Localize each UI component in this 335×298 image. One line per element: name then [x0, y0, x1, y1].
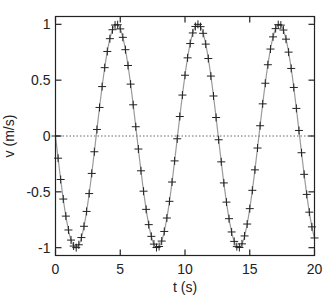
data-point-marker: [202, 40, 210, 48]
data-point-marker: [251, 166, 259, 174]
data-point-marker: [93, 125, 101, 133]
data-point-marker: [305, 208, 313, 216]
data-point-marker: [90, 148, 98, 156]
data-point-marker: [119, 33, 127, 41]
data-point-marker: [285, 48, 293, 56]
data-point-marker: [127, 80, 135, 88]
data-point-marker: [215, 136, 223, 144]
data-point-marker: [261, 79, 269, 87]
data-point-marker: [184, 54, 192, 62]
data-point-marker: [176, 113, 184, 121]
data-point-marker: [59, 195, 67, 203]
x-axis-ticks: 05101520: [52, 17, 323, 277]
data-point-marker: [132, 123, 140, 131]
data-point-marker: [57, 175, 65, 183]
data-point-marker: [140, 187, 148, 195]
data-point-marker: [77, 234, 85, 242]
data-point-marker: [212, 114, 220, 122]
data-point-marker: [101, 64, 109, 72]
data-point-marker: [83, 207, 91, 215]
velocity-chart: 05101520 -1-0.500.51 t (s) v (m/s): [0, 0, 335, 298]
y-tick-label: 1: [43, 16, 51, 32]
data-point-marker: [64, 226, 72, 234]
data-point-marker: [269, 33, 277, 41]
data-point-marker: [256, 122, 264, 130]
data-point-marker: [103, 47, 111, 55]
data-point-marker: [134, 145, 142, 153]
data-point-marker: [160, 227, 168, 235]
data-point-marker: [62, 212, 70, 220]
data-point-marker: [121, 46, 129, 54]
data-point-marker: [282, 35, 290, 43]
x-tick-label: 15: [242, 261, 258, 277]
x-tick-label: 0: [52, 261, 60, 277]
data-point-marker: [178, 91, 186, 99]
data-point-marker: [254, 144, 262, 152]
data-point-marker: [259, 100, 267, 108]
data-point-marker: [207, 72, 215, 80]
x-tick-label: 20: [307, 261, 323, 277]
data-point-marker: [292, 104, 300, 112]
data-point-marker: [171, 157, 179, 165]
data-point-marker: [145, 221, 153, 229]
data-point-marker: [137, 167, 145, 175]
y-tick-label: -0.5: [26, 184, 50, 200]
data-point-marker: [300, 170, 308, 178]
x-tick-label: 5: [116, 261, 124, 277]
x-axis-label: t (s): [173, 279, 197, 295]
data-point-marker: [222, 198, 230, 206]
data-point-marker: [217, 158, 225, 166]
data-point-marker: [85, 190, 93, 198]
data-point-marker: [98, 83, 106, 91]
data-point-marker: [106, 35, 114, 43]
data-point-marker: [88, 169, 96, 177]
data-point-marker: [124, 61, 132, 69]
data-point-marker: [295, 126, 303, 134]
data-point-marker: [248, 186, 256, 194]
data-point-marker: [266, 45, 274, 53]
data-point-marker: [243, 220, 251, 228]
data-point-marker: [165, 197, 173, 205]
data-point-marker: [173, 135, 181, 143]
y-tick-label: 0: [43, 128, 51, 144]
data-point-marker: [186, 40, 194, 48]
data-point-marker: [264, 61, 272, 69]
data-point-marker: [147, 232, 155, 240]
data-point-marker: [225, 215, 233, 223]
data-point-marker: [287, 64, 295, 72]
data-point-marker: [204, 55, 212, 63]
data-point-marker: [96, 103, 104, 111]
data-point-marker: [163, 214, 171, 222]
data-point-marker: [181, 71, 189, 79]
data-point-marker: [241, 232, 249, 240]
data-point-marker: [168, 178, 176, 186]
data-point-marker: [129, 101, 137, 109]
data-point-marker: [290, 83, 298, 91]
data-point-marker: [209, 92, 217, 100]
y-tick-label: 0.5: [31, 72, 51, 88]
data-point-marker: [298, 149, 306, 157]
x-tick-label: 10: [177, 261, 193, 277]
data-point-marker: [228, 228, 236, 236]
y-axis-label: v (m/s): [1, 115, 17, 158]
data-point-marker: [246, 205, 254, 213]
data-point-marker: [80, 222, 88, 230]
data-point-marker: [142, 205, 150, 213]
y-tick-label: -1: [38, 240, 51, 256]
data-point-marker: [220, 179, 228, 187]
